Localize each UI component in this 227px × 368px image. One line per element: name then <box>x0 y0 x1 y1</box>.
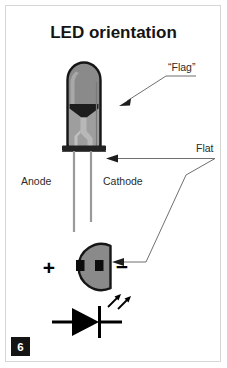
figure-title: LED orientation <box>50 23 177 42</box>
led-orientation-figure: LED orientation “Flag” <box>0 0 227 368</box>
symbol-triangle <box>72 308 99 336</box>
flat-label: Flat <box>196 142 214 154</box>
minus-sign: − <box>116 255 128 278</box>
schematic-symbol <box>52 294 131 338</box>
led-side-view <box>62 63 106 233</box>
cathode-label: Cathode <box>103 175 143 187</box>
figure-page: LED orientation “Flag” <box>0 0 227 368</box>
flag-callout: “Flag” <box>119 61 196 106</box>
bottom-view-contact-cathode <box>95 260 104 271</box>
led-flange <box>62 146 106 152</box>
led-bottom-view: + − <box>43 244 128 290</box>
flat-arrow-head-upper <box>106 155 118 163</box>
page-number-text: 6 <box>17 341 23 353</box>
symbol-emission-arrows <box>108 294 131 309</box>
flag-label: “Flag” <box>168 61 196 73</box>
flat-callout: Flat <box>106 142 215 266</box>
page-number-badge: 6 <box>11 337 30 356</box>
plus-sign: + <box>43 256 55 279</box>
bottom-view-contact-anode <box>76 260 85 271</box>
anode-label: Anode <box>21 175 52 187</box>
flag-leader-line <box>127 76 196 101</box>
